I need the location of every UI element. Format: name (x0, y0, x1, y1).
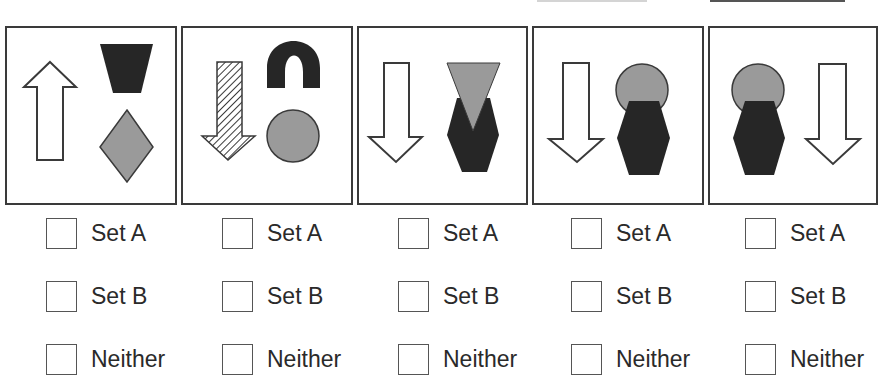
panel-4-set-a-option[interactable]: Set A (571, 217, 671, 249)
panel-4-neither-option[interactable]: Neither (571, 343, 690, 375)
panel-4-neither-checkbox[interactable] (571, 344, 602, 375)
option-label: Set A (443, 217, 498, 249)
panel-1-set-b-checkbox[interactable] (46, 281, 77, 312)
panel-2-set-b-checkbox[interactable] (222, 281, 253, 312)
panel-1-set-a-checkbox[interactable] (46, 218, 77, 249)
panel-5-set-b-option[interactable]: Set B (745, 280, 846, 312)
panel-3-neither-checkbox[interactable] (398, 344, 429, 375)
panel-2-neither-checkbox[interactable] (222, 344, 253, 375)
option-label: Set B (443, 280, 499, 312)
panel-4-set-a-checkbox[interactable] (571, 218, 602, 249)
panel-2-set-b-option[interactable]: Set B (222, 280, 323, 312)
panel-2-set-a-option[interactable]: Set A (222, 217, 322, 249)
panel-4-set-b-checkbox[interactable] (571, 281, 602, 312)
panel-1-neither-checkbox[interactable] (46, 344, 77, 375)
trapezoid-black-icon (100, 44, 153, 93)
option-label: Set B (267, 280, 323, 312)
option-label: Neither (267, 343, 341, 375)
option-label: Set B (91, 280, 147, 312)
figure-panel-4 (532, 26, 704, 205)
panel-5-set-a-checkbox[interactable] (745, 218, 776, 249)
option-label: Set A (790, 217, 845, 249)
up-arrow-white-icon (24, 62, 76, 160)
panel-1-neither-option[interactable]: Neither (46, 343, 165, 375)
panel-4-set-b-option[interactable]: Set B (571, 280, 672, 312)
option-label: Set A (91, 217, 146, 249)
circle-gray-icon (267, 110, 319, 162)
top-rule-line (537, 0, 647, 2)
option-label: Neither (790, 343, 864, 375)
panel-3-set-b-option[interactable]: Set B (398, 280, 499, 312)
panel-3-set-b-checkbox[interactable] (398, 281, 429, 312)
panel-2-neither-option[interactable]: Neither (222, 343, 341, 375)
panel-5-set-a-option[interactable]: Set A (745, 217, 845, 249)
figure-panel-1 (5, 26, 177, 205)
arch-black-icon (267, 41, 320, 88)
panel-3-set-a-option[interactable]: Set A (398, 217, 498, 249)
down-arrow-hatched-icon (202, 62, 255, 160)
panel-1-set-a-option[interactable]: Set A (46, 217, 146, 249)
down-arrow-white-icon (369, 63, 422, 162)
option-label: Neither (616, 343, 690, 375)
figure-panel-2 (181, 26, 353, 205)
panel-5-neither-option[interactable]: Neither (745, 343, 864, 375)
diamond-gray-icon (100, 110, 153, 182)
down-arrow-white-icon (806, 64, 860, 164)
figure-panel-5 (708, 26, 878, 205)
hexagon-black-icon (617, 101, 670, 175)
option-label: Set B (616, 280, 672, 312)
panel-5-neither-checkbox[interactable] (745, 344, 776, 375)
panel-5-set-b-checkbox[interactable] (745, 281, 776, 312)
down-arrow-white-icon (549, 63, 603, 162)
option-label: Set B (790, 280, 846, 312)
option-label: Neither (91, 343, 165, 375)
option-label: Set A (267, 217, 322, 249)
option-label: Neither (443, 343, 517, 375)
panel-2-set-a-checkbox[interactable] (222, 218, 253, 249)
hexagon-black-icon (733, 101, 785, 175)
top-rule-line (710, 0, 845, 2)
panel-3-set-a-checkbox[interactable] (398, 218, 429, 249)
option-label: Set A (616, 217, 671, 249)
figure-panel-3 (357, 26, 528, 205)
panel-1-set-b-option[interactable]: Set B (46, 280, 147, 312)
panel-3-neither-option[interactable]: Neither (398, 343, 517, 375)
